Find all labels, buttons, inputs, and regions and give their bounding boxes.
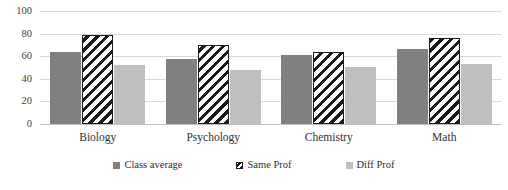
bar [114, 65, 145, 124]
chart-legend: Class averageSame ProfDiff Prof [0, 160, 508, 171]
legend-swatch-icon [346, 162, 353, 169]
y-tick-label: 40 [2, 74, 32, 85]
legend-item[interactable]: Same Prof [236, 160, 291, 171]
legend-swatch-icon [236, 162, 243, 169]
legend-swatch-icon [113, 162, 120, 169]
x-axis-tick-label: Psychology [156, 128, 272, 148]
x-axis-tick-label: Math [387, 128, 503, 148]
bar [50, 52, 81, 124]
x-axis-labels: BiologyPsychologyChemistryMath [40, 128, 502, 148]
bar-group [387, 11, 503, 124]
y-tick-label: 60 [2, 51, 32, 62]
bar [281, 55, 312, 124]
x-axis-tick-label: Chemistry [271, 128, 387, 148]
bar [397, 49, 428, 123]
bar-chart: 100 80 60 40 20 0 BiologyPsychologyChemi… [0, 0, 508, 190]
legend-label: Same Prof [247, 160, 291, 171]
bar [345, 67, 376, 123]
y-tick-label: 20 [2, 96, 32, 107]
bar [461, 64, 492, 124]
bar-group [40, 11, 156, 124]
legend-item[interactable]: Class average [113, 160, 182, 171]
gridline-0 [40, 124, 502, 125]
x-axis-tick-label: Biology [40, 128, 156, 148]
bar-groups [40, 11, 502, 124]
y-tick-label: 80 [2, 29, 32, 40]
bar [313, 52, 344, 124]
legend-label: Diff Prof [357, 160, 395, 171]
bar [230, 70, 261, 124]
y-tick-label: 0 [2, 119, 32, 130]
bar-group [156, 11, 272, 124]
legend-label: Class average [124, 160, 182, 171]
bar [198, 45, 229, 124]
legend-item[interactable]: Diff Prof [346, 160, 395, 171]
y-tick-label: 100 [2, 6, 32, 17]
bar [82, 35, 113, 124]
bar [429, 38, 460, 124]
bar-group [271, 11, 387, 124]
bar [166, 59, 197, 123]
